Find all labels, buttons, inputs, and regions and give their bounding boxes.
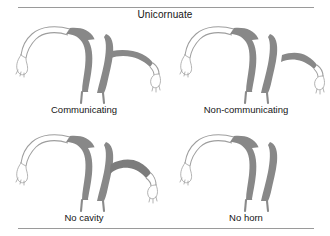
top-divider <box>18 7 314 8</box>
cervix-left-nc <box>245 92 246 103</box>
panel-no-cavity-illustration <box>8 122 166 212</box>
unicornuate-uterus-figure: Unicornuate Co <box>0 0 330 236</box>
cervix-right-communicating <box>103 93 104 103</box>
left-fallopian-tube-inner-nh <box>190 141 232 166</box>
cervix-right-nh <box>267 201 268 211</box>
left-fimbriae-ncav <box>16 163 28 185</box>
right-fallopian-tube-inner-ncav <box>146 178 151 186</box>
right-fallopian-tube-inner-nc <box>314 69 318 77</box>
panel-communicating-illustration <box>8 14 166 104</box>
cervix-right-ncav <box>103 201 104 211</box>
right-fallopian-tube-inner <box>150 67 154 75</box>
right-fimbriae-nc <box>315 76 325 94</box>
left-fimbriae-communicating <box>16 55 28 77</box>
panel-non-communicating-illustration <box>172 14 330 104</box>
bottom-divider <box>18 228 314 229</box>
right-fallopian-tube-ncav <box>151 173 156 185</box>
panel-label-non-communicating: Non-communicating <box>162 104 330 115</box>
panel-label-no-horn: No horn <box>162 212 330 223</box>
left-fimbriae-nc <box>180 55 192 77</box>
left-fimbriae-nh <box>180 163 192 185</box>
cervix-left-nh <box>245 200 246 211</box>
right-fimbriae-ncav <box>148 185 158 203</box>
rudimentary-horn-no-cavity <box>110 160 151 178</box>
left-fallopian-tube-inner <box>26 33 68 58</box>
cervix-left-ncav <box>81 200 82 211</box>
cervix-right-nc <box>267 93 268 103</box>
panel-label-communicating: Communicating <box>0 104 168 115</box>
rudimentary-horn-communicating <box>111 50 153 67</box>
panel-no-horn-illustration <box>172 122 330 212</box>
panel-label-no-cavity: No cavity <box>0 212 168 223</box>
cervix-left-communicating <box>81 92 82 103</box>
left-fallopian-tube-inner-nc <box>190 33 232 58</box>
left-fallopian-tube-inner-ncav <box>26 141 68 166</box>
rudimentary-horn-noncommunicating <box>281 53 317 69</box>
right-fimbriae-communicating <box>151 74 161 92</box>
